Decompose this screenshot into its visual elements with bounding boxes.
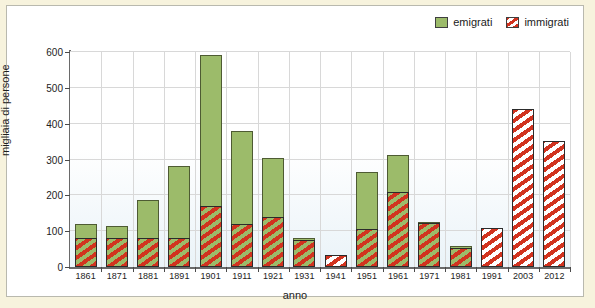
red-striped-swatch-icon <box>506 17 519 28</box>
x-tick-label: 1981 <box>451 271 471 281</box>
gridline-vertical <box>133 52 134 267</box>
x-tick-mark <box>508 267 509 272</box>
bar-segment-immigrati <box>543 141 565 267</box>
gridline-vertical <box>289 52 290 267</box>
bar-1971[interactable] <box>418 222 440 267</box>
bar-segment-immigrati <box>450 248 472 267</box>
x-tick-mark <box>195 267 196 272</box>
legend-item-emigrati: emigrati <box>435 16 492 28</box>
bar-2003[interactable] <box>512 109 534 267</box>
chart-card: emigrati immigrati migliaia di persone 0… <box>6 5 584 297</box>
bar-1951[interactable] <box>356 172 378 267</box>
bar-segment-immigrati <box>75 238 97 267</box>
bar-segment-immigrati <box>106 238 128 267</box>
y-tick-label: 500 <box>29 82 63 93</box>
x-tick-label: 1951 <box>357 271 377 281</box>
gridline-vertical <box>414 52 415 267</box>
gridline-vertical <box>539 52 540 267</box>
y-tick-label: 0 <box>29 262 63 273</box>
x-tick-mark <box>289 267 290 272</box>
x-tick-mark <box>476 267 477 272</box>
x-tick-mark <box>101 267 102 272</box>
gridline-vertical <box>476 52 477 267</box>
bar-segment-immigrati <box>262 217 284 267</box>
x-tick-label: 1911 <box>232 271 251 281</box>
x-tick-mark <box>258 267 259 272</box>
bar-1901[interactable] <box>200 55 222 267</box>
x-tick-mark <box>570 267 571 272</box>
gridline-vertical <box>445 52 446 267</box>
plot-area: 1861187118811891190119111921193119411951… <box>70 52 570 267</box>
bar-segment-immigrati <box>418 223 440 267</box>
x-tick-mark <box>320 267 321 272</box>
x-tick-label: 1871 <box>107 271 127 281</box>
gridline-vertical <box>383 52 384 267</box>
gridline-vertical <box>101 52 102 267</box>
bar-1861[interactable] <box>75 224 97 267</box>
x-tick-mark <box>133 267 134 272</box>
x-tick-label: 1961 <box>388 271 408 281</box>
bar-1881[interactable] <box>137 200 159 267</box>
bar-segment-immigrati <box>481 228 503 267</box>
y-tick-label: 100 <box>29 226 63 237</box>
x-tick-mark <box>383 267 384 272</box>
chart-legend: emigrati immigrati <box>435 16 569 28</box>
bar-1931[interactable] <box>293 238 315 267</box>
x-tick-label: 1921 <box>263 271 283 281</box>
bar-2012[interactable] <box>543 141 565 267</box>
x-tick-mark <box>539 267 540 272</box>
x-tick-mark <box>351 267 352 272</box>
bar-1991[interactable] <box>481 228 503 267</box>
bar-segment-immigrati <box>200 206 222 267</box>
bar-1921[interactable] <box>262 158 284 267</box>
y-tick-mark <box>65 267 70 268</box>
bar-segment-immigrati <box>512 109 534 267</box>
y-tick-label: 300 <box>29 154 63 165</box>
x-axis-label: anno <box>7 289 583 301</box>
x-tick-label: 1901 <box>201 271 221 281</box>
gridline-vertical <box>508 52 509 267</box>
bar-segment-immigrati <box>231 224 253 267</box>
x-tick-label: 2003 <box>513 271 533 281</box>
bar-segment-immigrati <box>325 255 347 267</box>
bar-1871[interactable] <box>106 226 128 267</box>
x-tick-label: 1931 <box>294 271 314 281</box>
x-tick-label: 1861 <box>76 271 96 281</box>
x-tick-mark <box>445 267 446 272</box>
bar-1911[interactable] <box>231 131 253 267</box>
gridline-vertical <box>164 52 165 267</box>
x-tick-label: 1881 <box>138 271 158 281</box>
gridline-vertical <box>226 52 227 267</box>
x-tick-mark <box>164 267 165 272</box>
y-tick-label: 600 <box>29 47 63 58</box>
bar-segment-immigrati <box>293 240 315 267</box>
gridline-vertical <box>320 52 321 267</box>
bar-1891[interactable] <box>168 166 190 267</box>
y-tick-label: 400 <box>29 118 63 129</box>
x-tick-mark <box>414 267 415 272</box>
gridline-vertical <box>570 52 571 267</box>
bar-segment-immigrati <box>168 238 190 267</box>
bar-segment-immigrati <box>137 238 159 267</box>
green-swatch-icon <box>435 17 448 28</box>
x-tick-label: 1891 <box>169 271 189 281</box>
legend-label-immigrati: immigrati <box>524 16 569 28</box>
x-tick-label: 2012 <box>544 271 564 281</box>
bar-segment-immigrati <box>356 229 378 267</box>
x-tick-mark <box>226 267 227 272</box>
y-tick-label: 200 <box>29 190 63 201</box>
y-axis-label: migliaia di persone <box>0 64 11 156</box>
bar-1981[interactable] <box>450 246 472 268</box>
x-tick-label: 1971 <box>419 271 439 281</box>
gridline-vertical <box>258 52 259 267</box>
bar-1941[interactable] <box>325 255 347 267</box>
x-tick-label: 1991 <box>482 271 502 281</box>
gridline-vertical <box>351 52 352 267</box>
legend-item-immigrati: immigrati <box>506 16 569 28</box>
gridline-vertical <box>195 52 196 267</box>
x-tick-label: 1941 <box>326 271 346 281</box>
legend-label-emigrati: emigrati <box>453 16 492 28</box>
bar-segment-immigrati <box>387 192 409 267</box>
bar-1961[interactable] <box>387 155 409 267</box>
